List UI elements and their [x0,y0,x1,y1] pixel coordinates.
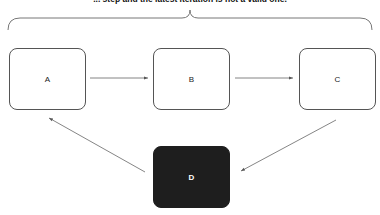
edge-c-d [241,120,336,171]
node-c: C [299,48,376,110]
node-c-label: C [335,75,341,84]
node-b: B [153,48,230,110]
brace [8,10,372,30]
node-a-label: A [45,75,50,84]
node-d: D [153,146,230,208]
node-b-label: B [189,75,194,84]
node-d-label: D [189,173,195,182]
node-a: A [9,48,86,110]
edge-d-a [49,118,145,172]
